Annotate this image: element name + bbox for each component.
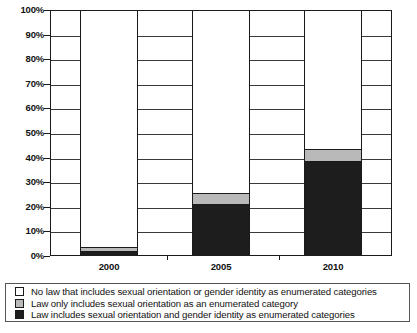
legend-item-law-so-and-gi[interactable]: Law includes sexual orientation and gend… — [6, 309, 409, 321]
gray-swatch-icon — [15, 299, 24, 308]
y-tick-label: 30% — [0, 177, 44, 187]
stacked-bar[interactable] — [304, 10, 362, 256]
y-tick-label: 10% — [0, 226, 44, 236]
y-tick-label: 100% — [0, 5, 44, 15]
y-tick-label: 20% — [0, 202, 44, 212]
bar-segment-law-so-only[interactable] — [81, 247, 137, 251]
bar-segment-law-so-and-gi[interactable] — [81, 251, 137, 256]
x-tick-mark — [167, 256, 168, 260]
legend-item-no-law[interactable]: No law that includes sexual orientation … — [6, 286, 409, 298]
x-tick-label-2010: 2010 — [304, 261, 362, 272]
x-tick-label-2000: 2000 — [80, 261, 138, 272]
bar-segment-law-so-and-gi[interactable] — [305, 161, 361, 256]
stacked-bar[interactable] — [80, 10, 138, 256]
bar-segment-no-law[interactable] — [193, 10, 249, 193]
bar-segment-no-law[interactable] — [81, 10, 137, 247]
bars-layer — [50, 10, 392, 256]
stacked-bar[interactable] — [192, 10, 250, 256]
stacked-bar-chart: 100% 90% 80% 70% 60% 50% 40% 30% 20% 10%… — [0, 0, 417, 333]
bar-group-2000 — [80, 10, 138, 256]
y-tick-label: 40% — [0, 153, 44, 163]
legend-label: Law includes sexual orientation and gend… — [31, 309, 355, 320]
bar-segment-law-so-only[interactable] — [305, 149, 361, 161]
x-axis: 2000 2005 2010 — [50, 261, 392, 275]
bar-segment-law-so-only[interactable] — [193, 193, 249, 204]
legend-label: No law that includes sexual orientation … — [31, 286, 377, 297]
black-swatch-icon — [15, 310, 24, 319]
y-tick-label: 60% — [0, 103, 44, 113]
y-tick-label: 0% — [0, 251, 44, 261]
legend-item-law-so-only[interactable]: Law only includes sexual orientation as … — [6, 298, 409, 310]
bar-segment-no-law[interactable] — [305, 10, 361, 149]
white-swatch-icon — [15, 287, 24, 296]
y-tick-label: 50% — [0, 128, 44, 138]
chart-legend: No law that includes sexual orientation … — [5, 283, 410, 322]
x-tick-mark — [279, 256, 280, 260]
legend-label: Law only includes sexual orientation as … — [31, 298, 298, 309]
x-tick-label-2005: 2005 — [192, 261, 250, 272]
y-tick-label: 70% — [0, 79, 44, 89]
y-tick-label: 80% — [0, 54, 44, 64]
y-tick-mark — [44, 256, 50, 257]
y-tick-label: 90% — [0, 30, 44, 40]
bar-group-2005 — [192, 10, 250, 256]
bar-segment-law-so-and-gi[interactable] — [193, 204, 249, 256]
bar-group-2010 — [304, 10, 362, 256]
